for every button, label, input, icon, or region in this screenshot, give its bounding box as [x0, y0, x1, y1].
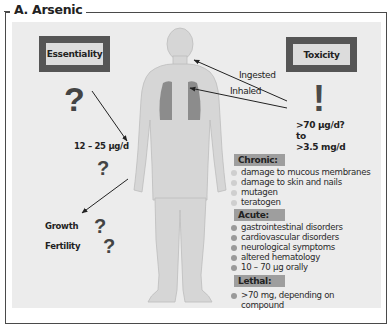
- lethal-label: Lethal:: [234, 275, 285, 287]
- acute-list: gastrointestinal disorders cardiovascula…: [230, 222, 343, 272]
- bullet-icon: [231, 200, 237, 206]
- toxic-dose-line2: to: [296, 131, 306, 141]
- list-item: >70 mg, depending on: [230, 290, 334, 300]
- list-item: 10 – 70 µg orally: [230, 262, 343, 272]
- list-item: damage to mucous membranes: [230, 167, 370, 177]
- effect-growth: Growth: [45, 221, 78, 231]
- route-inhaled: Inhaled: [230, 86, 261, 96]
- effect-fertility: Fertility: [45, 241, 80, 251]
- essential-dose: 12 – 25 µg/d: [74, 141, 129, 151]
- bullet-icon: [231, 180, 237, 186]
- bullet-icon: [231, 255, 237, 261]
- route-ingested: Ingested: [239, 70, 276, 80]
- toxic-dose-line1: >70 µg/d?: [296, 120, 345, 130]
- human-body-icon: [134, 28, 226, 302]
- lethal-list: >70 mg, depending on compound: [230, 290, 334, 310]
- list-item: gastrointestinal disorders: [230, 222, 343, 232]
- list-item: mutagen: [230, 187, 370, 197]
- bullet-icon: [231, 170, 237, 176]
- chronic-list: damage to mucous membranes damage to ski…: [230, 167, 370, 207]
- essentiality-label: Essentiality: [46, 43, 103, 65]
- bullet-icon: [231, 235, 237, 241]
- list-item-continuation: compound: [230, 300, 334, 310]
- list-item: damage to skin and nails: [230, 177, 370, 187]
- growth-question-icon: ?: [94, 216, 106, 236]
- arrow-dose-to-effects: [82, 179, 128, 213]
- bullet-icon: [231, 245, 237, 251]
- bullet-icon: [231, 265, 237, 271]
- essentiality-box: Essentiality: [39, 36, 110, 72]
- bullet-icon: [231, 225, 237, 231]
- list-item: cardiovascular disorders: [230, 232, 343, 242]
- bullet-icon: [231, 190, 237, 196]
- essentiality-question-icon: ?: [64, 82, 85, 116]
- toxicity-label: Toxicity: [293, 44, 350, 65]
- list-item: altered hematology: [230, 252, 343, 262]
- toxicity-exclamation-icon: !: [313, 81, 325, 117]
- dose-question-icon: ?: [97, 158, 109, 178]
- acute-label: Acute:: [234, 209, 285, 221]
- arrow-essentiality-to-dose: [92, 91, 127, 141]
- bullet-icon: [231, 293, 237, 299]
- list-item: neurological symptoms: [230, 242, 343, 252]
- chronic-label: Chronic:: [234, 154, 285, 166]
- fertility-question-icon: ?: [103, 236, 115, 256]
- list-item: teratogen: [230, 197, 370, 207]
- toxic-dose-line3: >3.5 mg/d: [296, 142, 345, 152]
- toxicity-box: Toxicity: [286, 37, 357, 72]
